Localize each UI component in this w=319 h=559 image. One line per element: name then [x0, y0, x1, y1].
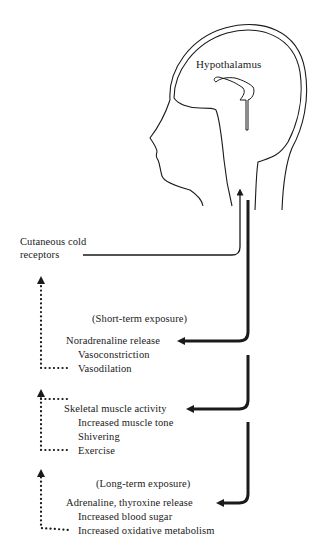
long-term-heading: (Long-term exposure) [96, 478, 190, 490]
head-outline [150, 25, 307, 210]
muscle-tone-label: Increased muscle tone [78, 417, 173, 429]
hypothalamus-label: Hypothalamus [196, 58, 261, 70]
adrenaline-label: Adrenaline, thyroxine release [66, 497, 193, 509]
shivering-label: Shivering [78, 431, 120, 443]
diagram-artwork [0, 0, 319, 559]
feedback-arrowheads [37, 276, 45, 477]
efferent-arrows [181, 200, 248, 503]
exercise-label: Exercise [78, 445, 115, 457]
short-term-heading: (Short-term exposure) [92, 313, 187, 325]
oxidative-metabolism-label: Increased oxidative metabolism [78, 525, 215, 537]
noradrenaline-label: Noradrenaline release [66, 335, 160, 347]
receptors-label-line2: receptors [20, 249, 59, 261]
vasodilation-label: Vasodilation [78, 363, 132, 375]
afferent-arrow [83, 192, 240, 255]
skeletal-muscle-label: Skeletal muscle activity [64, 403, 167, 415]
vasoconstriction-label: Vasoconstriction [78, 349, 150, 361]
receptors-label-line1: Cutaneous cold [20, 236, 86, 248]
blood-sugar-label: Increased blood sugar [78, 511, 172, 523]
